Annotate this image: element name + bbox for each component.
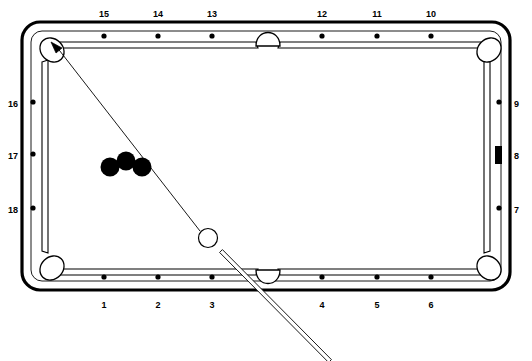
cushion-bottom-left <box>58 269 258 275</box>
pool-table-graphic <box>0 0 532 361</box>
diamond-label-bottom-3: 3 <box>204 300 220 310</box>
diamond-dot-top-13 <box>209 33 214 38</box>
cushion-left <box>42 60 48 253</box>
diamond-label-right-8: 8 <box>514 151 530 161</box>
pool-table-diagram: 151413121110123456161718987 <box>0 0 532 361</box>
object-ball-right <box>133 158 152 177</box>
diamond-dot-bottom-3 <box>209 274 214 279</box>
cushion-right <box>484 60 490 253</box>
diamond-label-top-10: 10 <box>423 9 439 19</box>
diamond-label-left-17: 17 <box>2 151 18 161</box>
diamond-dot-top-12 <box>319 33 324 38</box>
table-frame-group <box>22 22 510 290</box>
diamond-dot-top-15 <box>101 33 106 38</box>
diamond-label-top-15: 15 <box>96 9 112 19</box>
diamond-label-right-7: 7 <box>514 205 530 215</box>
diamond-label-bottom-4: 4 <box>314 300 330 310</box>
diamond-dot-right-9 <box>496 99 501 104</box>
diamond-label-top-11: 11 <box>369 9 385 19</box>
target-diamond-marker <box>495 146 502 164</box>
diamond-label-left-16: 16 <box>2 99 18 109</box>
diamond-dot-left-18 <box>30 205 35 210</box>
diamond-dot-bottom-6 <box>428 274 433 279</box>
diamond-label-bottom-5: 5 <box>369 300 385 310</box>
diamond-label-bottom-2: 2 <box>150 300 166 310</box>
cushion-top-left <box>58 42 258 48</box>
diamond-label-top-12: 12 <box>314 9 330 19</box>
cushion-bottom-right <box>278 269 483 275</box>
cushion-top-right <box>278 42 483 48</box>
diamond-label-bottom-1: 1 <box>96 300 112 310</box>
cue-ball <box>199 229 218 248</box>
diamond-dot-bottom-1 <box>101 274 106 279</box>
diamond-dot-top-10 <box>428 33 433 38</box>
table-outer-frame <box>22 22 510 290</box>
diamond-label-bottom-6: 6 <box>423 300 439 310</box>
diamond-dot-right-7 <box>496 205 501 210</box>
diamond-dot-left-16 <box>30 99 35 104</box>
diamond-dot-bottom-2 <box>155 274 160 279</box>
diamond-dot-left-17 <box>30 151 35 156</box>
diamond-label-top-14: 14 <box>150 9 166 19</box>
diamond-label-top-13: 13 <box>204 9 220 19</box>
diamond-dot-top-11 <box>374 33 379 38</box>
diamond-dot-top-14 <box>155 33 160 38</box>
diamond-label-right-9: 9 <box>514 99 530 109</box>
diamond-label-left-18: 18 <box>2 205 18 215</box>
diamond-dot-bottom-5 <box>374 274 379 279</box>
diamond-dot-bottom-4 <box>319 274 324 279</box>
